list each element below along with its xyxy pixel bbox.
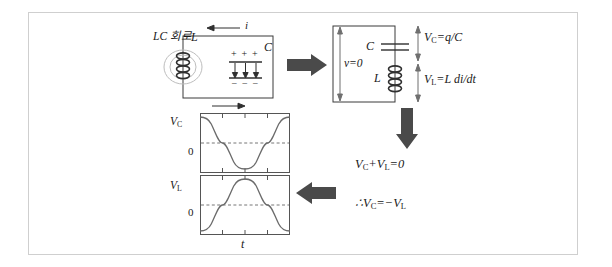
eq2-v1: ∴V	[355, 196, 371, 210]
v-zero-arrow	[338, 27, 343, 101]
vl-plot	[200, 175, 290, 235]
eq1-rest: =0	[390, 157, 405, 171]
vl-axis-label-v: V	[170, 179, 177, 191]
vl-equation: VL=L di/dt	[424, 73, 476, 87]
vl-zero-tick-label: 0	[188, 207, 194, 218]
t-axis-label: t	[241, 238, 244, 250]
capacitor-plus-2: +	[242, 49, 248, 59]
vl-span-bracket	[416, 64, 421, 102]
equation-sum-zero: VC+VL=0	[355, 158, 404, 171]
vc-axis-label-v: V	[170, 115, 177, 127]
plots-group: VC 0 VL 0	[168, 112, 303, 247]
eq1-v1: V	[355, 157, 363, 171]
vc-zero-tick-label: 0	[188, 146, 194, 157]
arrow-down	[396, 108, 418, 150]
arrow-right-1	[287, 54, 329, 76]
vc-axis-label-sub: C	[177, 120, 182, 129]
vl-axis-label-sub: L	[177, 184, 182, 193]
vl-axis-label: VL	[170, 180, 182, 193]
eq1-v2: +V	[368, 157, 384, 171]
vc-equation: VC=q/C	[424, 31, 462, 45]
vc-equation-rest: =q/C	[437, 30, 462, 44]
capacitor-minus-3: −	[253, 79, 259, 89]
capacitor-plus-1: +	[231, 49, 237, 59]
vc-span-bracket	[416, 26, 421, 61]
figure-root: + + + − − − LC 회로 L C i	[0, 0, 612, 267]
left-circuit-group: + + + − − − LC 회로 L C i	[150, 18, 310, 110]
inductor-label-left: L	[191, 31, 198, 43]
lc-circuit-label: LC 회로	[153, 31, 192, 43]
capacitor-label-right: C	[366, 40, 374, 52]
vc-axis-label: VC	[170, 116, 182, 129]
capacitor-minus-1: −	[232, 79, 238, 89]
velocity-zero-label: v=0	[344, 58, 363, 70]
capacitor-minus-2: −	[242, 79, 248, 89]
eq2-sub2: L	[401, 201, 406, 211]
eq2-v2: =−V	[376, 196, 401, 210]
capacitor-plus-3: +	[252, 49, 258, 59]
current-label: i	[245, 20, 248, 31]
vc-plot	[200, 113, 290, 173]
vl-equation-rest: =L di/dt	[436, 72, 476, 86]
right-circuit-group: C L v=0 VC=q/C VL=L di/dt	[326, 18, 516, 110]
capacitor-label-left: C	[264, 41, 272, 53]
inductor-label-right: L	[374, 72, 381, 84]
equation-vc-equals-neg-vl: ∴VC=−VL	[355, 197, 406, 210]
lc-circuit-label-text: LC 회로	[153, 30, 192, 42]
